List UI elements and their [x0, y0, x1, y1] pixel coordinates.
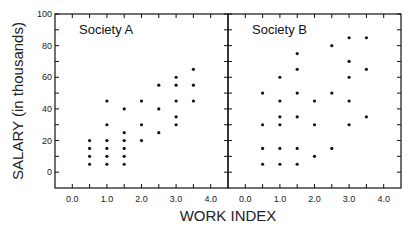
panel-title: Society A [79, 22, 134, 37]
data-point [175, 99, 178, 102]
data-point [365, 68, 368, 71]
x-tick-label: 4.0 [204, 194, 217, 204]
data-point [278, 147, 281, 150]
data-point [175, 84, 178, 87]
data-point [278, 163, 281, 166]
y-tick-label: 100 [37, 9, 52, 19]
data-point [261, 91, 264, 94]
data-point [175, 123, 178, 126]
x-tick-label: 0.0 [239, 194, 252, 204]
data-point [348, 123, 351, 126]
data-point [140, 99, 143, 102]
data-point [296, 68, 299, 71]
data-point [278, 76, 281, 79]
data-point [330, 147, 333, 150]
data-point [123, 147, 126, 150]
x-tick-label: 2.0 [308, 194, 321, 204]
data-point [105, 155, 108, 158]
data-point [330, 44, 333, 47]
data-point [192, 99, 195, 102]
data-point [348, 60, 351, 63]
y-tick-label: 60 [42, 72, 52, 82]
data-point [105, 123, 108, 126]
data-point [88, 139, 91, 142]
x-tick-label: 3.0 [170, 194, 183, 204]
data-point [296, 163, 299, 166]
y-tick-label: 20 [42, 136, 52, 146]
data-point [296, 115, 299, 118]
data-point [105, 99, 108, 102]
data-point [123, 131, 126, 134]
x-tick-label: 3.0 [343, 194, 356, 204]
data-point [261, 123, 264, 126]
data-point [175, 115, 178, 118]
data-point [365, 115, 368, 118]
data-point [296, 147, 299, 150]
y-tick-label: 80 [42, 41, 52, 51]
data-point [330, 91, 333, 94]
data-point [278, 123, 281, 126]
data-point [348, 36, 351, 39]
data-point [105, 147, 108, 150]
data-point [296, 52, 299, 55]
data-point [261, 147, 264, 150]
data-point [261, 163, 264, 166]
data-point [123, 139, 126, 142]
x-tick-label: 1.0 [274, 194, 287, 204]
data-point [123, 107, 126, 110]
data-point [157, 131, 160, 134]
data-point [88, 147, 91, 150]
data-point [192, 84, 195, 87]
y-tick-label: 40 [42, 104, 52, 114]
data-point [88, 155, 91, 158]
y-tick-label: 0 [47, 167, 52, 177]
x-tick-label: 1.0 [101, 194, 114, 204]
salary-scatter-chart: SALARY (in thousands)0204060801000.01.02… [0, 0, 417, 231]
x-axis-title: WORK INDEX [180, 207, 277, 224]
data-point [278, 99, 281, 102]
x-tick-label: 0.0 [66, 194, 79, 204]
data-point [192, 68, 195, 71]
data-point [313, 123, 316, 126]
data-point [105, 139, 108, 142]
data-point [105, 163, 108, 166]
data-point [313, 155, 316, 158]
panel-title: Society B [252, 22, 307, 37]
data-point [123, 163, 126, 166]
data-point [140, 139, 143, 142]
data-point [348, 99, 351, 102]
data-point [140, 123, 143, 126]
x-tick-label: 4.0 [377, 194, 390, 204]
data-point [365, 36, 368, 39]
x-tick-label: 2.0 [135, 194, 148, 204]
data-point [175, 76, 178, 79]
data-point [123, 155, 126, 158]
data-point [278, 115, 281, 118]
y-axis-title: SALARY (in thousands) [9, 22, 26, 180]
data-point [313, 99, 316, 102]
data-point [157, 84, 160, 87]
data-point [157, 107, 160, 110]
data-point [296, 91, 299, 94]
data-point [348, 76, 351, 79]
data-point [88, 163, 91, 166]
